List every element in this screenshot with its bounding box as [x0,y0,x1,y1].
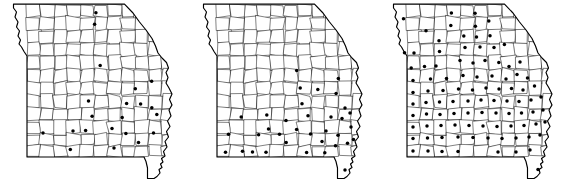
county-polygon [122,83,135,96]
county-dot-marker [515,73,519,77]
county-dot-marker [155,113,159,117]
county-dot-marker [71,129,75,133]
county-polygon [94,108,109,121]
county-polygon [406,3,420,18]
county-dot-marker [503,43,507,47]
county-dot-marker [316,88,320,92]
county-polygon [284,95,299,108]
county-polygon [460,29,474,43]
county-polygon [81,5,95,17]
county-dot-marker [403,51,407,55]
county-dot-marker [439,124,443,128]
county-dot-marker [402,17,406,21]
county-dot-marker [152,131,156,135]
county-polygon [353,16,363,31]
county-dot-marker [411,91,415,95]
county-polygon [339,145,353,156]
county-dot-marker [320,140,324,144]
county-dot-marker [487,19,491,23]
county-polygon [229,17,245,31]
county-polygon [435,56,448,70]
county-dot-marker [456,135,460,139]
county-dot-marker [409,66,413,70]
county-polygon [299,68,313,83]
county-polygon [230,68,244,83]
county-polygon [475,132,488,145]
county-polygon [26,18,39,31]
county-polygon [528,81,541,96]
county-polygon [108,108,120,122]
county-dot-marker [84,129,88,133]
county-polygon [26,107,41,121]
county-dot-marker [340,117,344,121]
county-polygon [529,55,543,70]
county-polygon [257,94,271,110]
county-dot-marker [494,111,498,115]
county-dot-marker [343,106,347,110]
county-polygon [39,31,54,44]
county-dot-marker [426,89,430,93]
county-polygon [218,42,232,56]
county-boundaries [405,3,553,159]
county-dot-marker [324,129,328,133]
county-polygon [446,30,461,43]
county-polygon [93,82,107,96]
county-polygon [528,120,542,134]
county-polygon [147,18,161,31]
county-polygon [351,30,361,43]
county-dot-marker [90,114,94,118]
county-polygon [148,42,163,57]
county-polygon [311,55,327,69]
county-polygon [474,56,489,70]
county-dot-marker [518,60,522,64]
county-polygon [543,16,553,31]
county-dot-marker [497,61,501,65]
county-polygon [310,30,326,43]
county-polygon [434,30,449,45]
county-polygon [121,55,137,69]
county-dot-marker [531,110,535,114]
county-polygon [80,29,94,43]
county-dot-marker [134,87,138,91]
county-polygon [95,132,108,145]
county-polygon [216,18,229,31]
county-polygon [420,4,436,18]
county-dot-marker [124,132,128,136]
county-polygon [459,144,474,157]
county-polygon [40,68,54,83]
county-polygon [270,29,284,43]
county-dot-marker [504,77,508,81]
county-polygon [461,5,475,17]
county-dot-marker [507,65,511,69]
county-polygon [136,56,150,70]
county-dot-marker [334,92,338,96]
missouri-map-svg [0,0,190,186]
county-polygon [40,108,54,120]
map-panel-3 [380,0,570,186]
county-polygon [487,81,503,94]
county-dot-marker [471,88,475,92]
county-polygon [285,29,298,43]
county-polygon [488,4,502,16]
county-polygon [149,145,163,156]
county-polygon [514,5,530,19]
county-dot-marker [514,150,518,154]
county-dot-marker [505,99,509,103]
county-dot-marker [520,111,524,115]
county-dot-marker [346,142,350,146]
county-polygon [326,95,339,108]
county-polygon [406,18,419,31]
county-polygon [283,6,298,19]
county-dot-marker [466,99,470,103]
county-polygon [476,17,488,31]
county-polygon [134,70,149,82]
county-dot-marker [466,111,470,115]
county-dot-marker [334,144,338,148]
county-dot-marker [490,74,494,78]
county-dot-marker [323,151,327,155]
county-polygon [148,81,161,96]
county-polygon [337,18,351,31]
county-dot-marker [500,137,504,141]
county-dot-marker [426,149,430,153]
county-dot-marker [241,150,245,154]
